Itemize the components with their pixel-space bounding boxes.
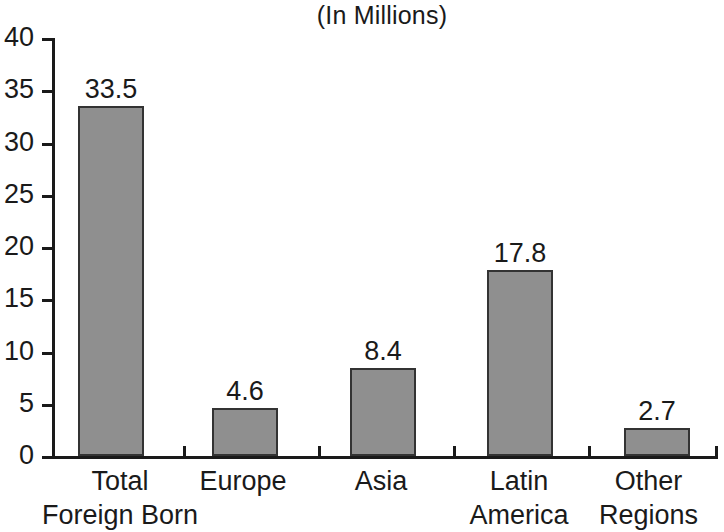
y-tick-15: 15 [42, 299, 53, 302]
y-tick-label-40: 40 [0, 22, 34, 52]
y-tick-label-30: 30 [0, 127, 34, 157]
plot-area: 40 35 30 25 20 15 10 5 0 [52, 38, 718, 459]
bar-value-total-foreign-born: 33.5 [85, 74, 138, 104]
y-tick-0: 0 [42, 456, 53, 459]
bar-total-foreign-born: 33.5 [78, 106, 144, 456]
category-label-line1: Other [615, 466, 683, 496]
y-tick-35: 35 [42, 90, 53, 93]
chart-title: (In Millions) [0, 0, 724, 30]
category-label-other-regions: Other Regions [573, 464, 724, 532]
y-tick-label-5: 5 [0, 388, 34, 418]
bar-latin-america: 17.8 [487, 270, 553, 456]
x-tick-2 [318, 446, 321, 459]
bar-value-asia: 8.4 [364, 336, 402, 366]
y-tick-label-10: 10 [0, 336, 34, 366]
y-tick-5: 5 [42, 404, 53, 407]
y-tick-40: 40 [42, 38, 53, 41]
bar-europe: 4.6 [212, 408, 278, 456]
category-label-line2: Foreign Born [18, 498, 222, 532]
y-tick-label-15: 15 [0, 283, 34, 313]
y-tick-label-25: 25 [0, 179, 34, 209]
bar-value-europe: 4.6 [226, 376, 264, 406]
y-tick-label-35: 35 [0, 74, 34, 104]
y-tick-label-20: 20 [0, 231, 34, 261]
y-tick-10: 10 [42, 352, 53, 355]
y-tick-25: 25 [42, 195, 53, 198]
x-tick-4 [588, 446, 591, 459]
bar-value-other-regions: 2.7 [638, 396, 676, 426]
x-axis-line [52, 456, 718, 459]
bar-value-latin-america: 17.8 [494, 238, 547, 268]
x-tick-3 [453, 446, 456, 459]
category-label-line1: Europe [199, 466, 286, 496]
y-tick-20: 20 [42, 247, 53, 250]
bar-other-regions: 2.7 [624, 428, 690, 456]
x-tick-5 [715, 446, 718, 459]
category-label-line1: Asia [355, 466, 408, 496]
x-tick-1 [183, 446, 186, 459]
category-label-line2: Regions [573, 498, 724, 532]
bar-asia: 8.4 [350, 368, 416, 456]
y-tick-30: 30 [42, 143, 53, 146]
category-label-line1: Total [91, 466, 148, 496]
category-label-line1: Latin [490, 466, 549, 496]
